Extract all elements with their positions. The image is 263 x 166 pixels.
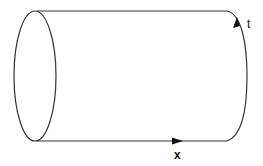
x-axis-label: x xyxy=(174,148,181,162)
cylinder-diagram: t x xyxy=(0,0,263,166)
cylinder-right-arc xyxy=(227,11,247,141)
t-axis-label: t xyxy=(247,17,251,31)
cylinder-left-end-ellipse xyxy=(14,11,56,141)
x-axis-arrow-icon xyxy=(172,138,183,145)
